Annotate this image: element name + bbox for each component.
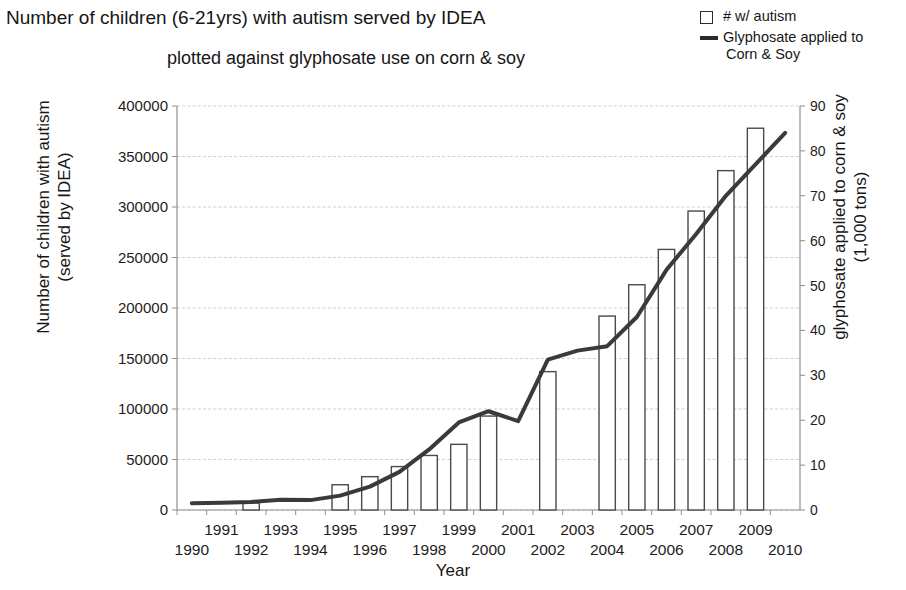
y-axis-right-tick-label: 10 [810,457,826,473]
x-axis-tick-label: 1997 [382,521,416,538]
bar [540,372,556,510]
plot-area: 0500001000001500002000002500003000003500… [0,0,906,590]
bar [421,455,437,510]
x-axis-tick-label: 1992 [234,541,268,558]
x-axis-tick-label: 2000 [471,541,506,558]
y-axis-left-tick-label: 150000 [118,350,168,367]
x-axis-tick-label: 1990 [175,541,210,558]
y-axis-right-tick-label: 70 [810,188,826,204]
x-axis-tick-label: 2004 [590,541,625,558]
y-axis-right-tick-label: 20 [810,412,826,428]
bar [747,128,763,510]
y-axis-right-tick-label: 50 [810,278,826,294]
y-axis-left-tick-label: 100000 [118,400,168,417]
x-axis-tick-label: 2003 [560,521,594,538]
x-axis-tick-label: 1991 [204,521,238,538]
bar [718,171,734,510]
y-axis-right-label: glyphosate applied to corn & soy (1,000 … [829,67,871,367]
y-axis-right-tick-label: 30 [810,367,826,383]
bar [688,211,704,510]
x-axis-tick-label: 1998 [412,541,446,558]
y-axis-right-tick-label: 0 [810,502,818,518]
bar [480,416,496,510]
y-axis-left-label: Number of children with autism (served b… [33,67,75,367]
x-axis-tick-label: 1995 [323,521,357,538]
y-axis-left-tick-label: 400000 [118,97,168,114]
y-axis-right-tick-label: 80 [810,143,826,159]
y-axis-left-tick-label: 250000 [118,249,168,266]
y-axis-left-tick-label: 0 [160,501,168,518]
y-axis-left-tick-label: 350000 [118,148,168,165]
y-axis-right-tick-label: 60 [810,233,826,249]
bar [658,249,674,510]
y-axis-left-tick-label: 200000 [118,299,168,316]
y-axis-right-label-line1: glyphosate applied to corn & soy [830,94,849,340]
bar [451,444,467,510]
y-axis-right-tick-label: 90 [810,98,826,114]
x-axis-tick-label: 2009 [738,521,772,538]
x-axis-tick-label: 1999 [442,521,476,538]
y-axis-left-tick-label: 300000 [118,198,168,215]
y-axis-right-label-line2: (1,000 tons) [851,172,870,263]
x-axis-tick-label: 2002 [531,541,565,558]
x-axis-tick-label: 2006 [649,541,683,558]
x-axis-tick-label: 2005 [620,521,654,538]
x-axis-tick-label: 2008 [709,541,743,558]
x-axis-label: Year [0,561,906,581]
y-axis-left-tick-label: 50000 [126,451,168,468]
chart-page: Number of children (6-21yrs) with autism… [0,0,906,590]
x-axis-tick-label: 1993 [264,521,298,538]
y-axis-right-tick-label: 40 [810,322,826,338]
y-axis-left-label-line2: (served by IDEA) [55,152,74,281]
chart-canvas: 0500001000001500002000002500003000003500… [0,0,906,590]
x-axis-tick-label: 1994 [293,541,328,558]
x-axis-tick-label: 2001 [501,521,535,538]
x-axis-tick-label: 1996 [353,541,387,558]
x-axis-tick-label: 2007 [679,521,713,538]
y-axis-left-label-line1: Number of children with autism [34,100,53,333]
x-axis-tick-label: 2010 [768,541,803,558]
